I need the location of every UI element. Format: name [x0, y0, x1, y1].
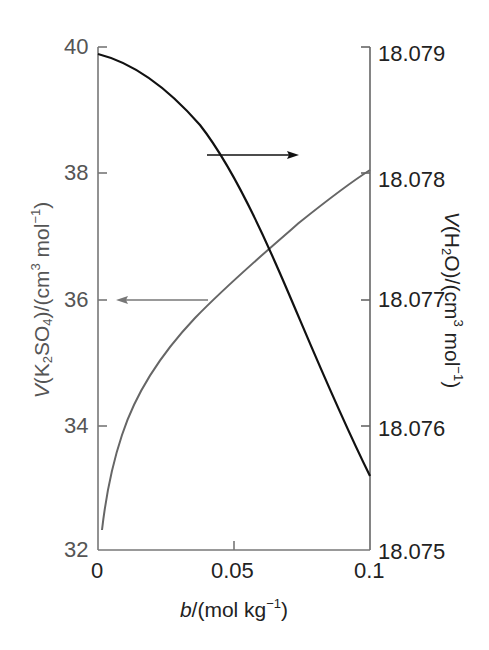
- left-axis-ticks: [98, 47, 107, 426]
- x-tick-0.05: 0.05: [211, 560, 254, 582]
- x-tick-0: 0: [91, 560, 103, 582]
- y-left-tick-34: 34: [64, 415, 88, 437]
- h2o-curve: [98, 54, 370, 476]
- y-right-tick-18.077: 18.077: [378, 289, 445, 311]
- x-tick-0.1: 0.1: [354, 560, 385, 582]
- right-axis-ticks: [361, 47, 370, 426]
- y-left-tick-32: 32: [64, 539, 88, 561]
- y-left-tick-36: 36: [64, 289, 88, 311]
- y-left-tick-38: 38: [64, 162, 88, 184]
- y-right-tick-18.079: 18.079: [378, 43, 445, 65]
- y-left-axis-label: V(K2SO4)/(cm3 mol−1): [30, 202, 54, 398]
- k2so4-curve: [102, 170, 370, 530]
- x-axis-label: b/(mol kg−1): [180, 598, 288, 622]
- y-left-tick-40: 40: [64, 36, 88, 58]
- y-right-axis-label: V(H2O)/(cm3 mol−1): [440, 212, 464, 388]
- y-right-tick-18.078: 18.078: [378, 169, 445, 191]
- y-right-tick-18.075: 18.075: [378, 541, 445, 563]
- y-right-tick-18.076: 18.076: [378, 418, 445, 440]
